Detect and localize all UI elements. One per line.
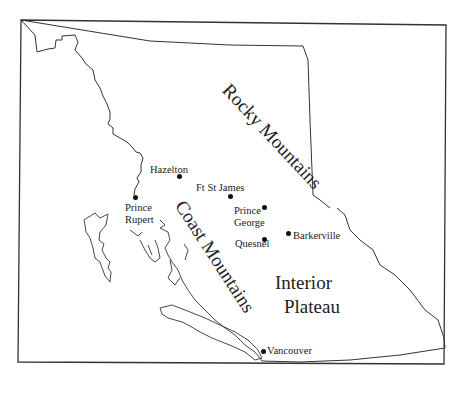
- city-dot-vancouver: [261, 349, 266, 354]
- city-label-prince-george-2: George: [234, 217, 265, 228]
- city-label-barkerville: Barkerville: [293, 230, 340, 241]
- city-label-prince-rupert-1: Prince: [125, 202, 152, 213]
- city-label-vancouver: Vancouver: [267, 345, 312, 356]
- city-dot-prince-rupert: [133, 195, 138, 200]
- city-label-prince-george-1: Prince: [234, 205, 261, 216]
- vancouver-island: [160, 305, 262, 360]
- label-interior: Interior: [275, 273, 332, 293]
- city-dot-ft-st-james: [228, 194, 233, 199]
- haida-gwaii: [84, 213, 111, 282]
- city-label-prince-rupert-2: Rupert: [125, 214, 154, 225]
- label-plateau: Plateau: [284, 297, 340, 317]
- city-dot-barkerville: [286, 231, 291, 236]
- city-label-hazelton: Hazelton: [150, 164, 188, 175]
- city-label-quesnel: Quesnel: [235, 238, 269, 249]
- city-label-ft-st-james: Ft St James: [196, 182, 244, 193]
- city-dot-prince-george: [262, 205, 267, 210]
